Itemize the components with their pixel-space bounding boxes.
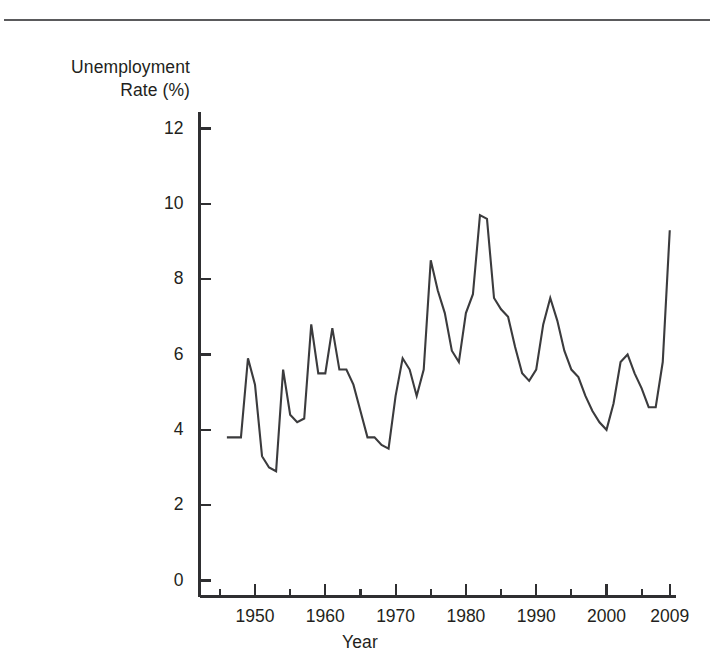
- x-axis-tick-label: 1970: [356, 608, 436, 626]
- x-axis-tick-label: 1960: [285, 608, 365, 626]
- x-axis-tick-label: 2009: [630, 608, 710, 626]
- x-axis-title: Year: [0, 632, 720, 653]
- y-axis-tick-label: 12: [142, 120, 184, 138]
- x-axis-tick-label: 1990: [496, 608, 576, 626]
- y-axis-tick-label: 6: [142, 346, 184, 364]
- x-axis-tick-label: 1980: [426, 608, 506, 626]
- unemployment-rate-figure: Unemployment Rate (%) 024681012 19501960…: [0, 0, 720, 666]
- y-axis-tick-label: 2: [142, 496, 184, 514]
- x-axis-tick-label: 1950: [215, 608, 295, 626]
- y-axis-tick-label: 0: [142, 572, 184, 590]
- y-axis-tick-label: 8: [142, 270, 184, 288]
- y-axis-tick-label: 10: [142, 195, 184, 213]
- line-chart-plot: [0, 0, 720, 666]
- unemployment-rate-series-line: [227, 215, 670, 471]
- y-axis-tick-label: 4: [142, 421, 184, 439]
